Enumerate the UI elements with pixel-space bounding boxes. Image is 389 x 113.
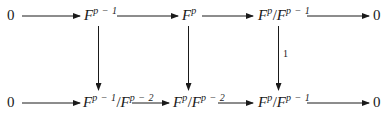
label-text: 1: [283, 48, 288, 59]
denominator-base: F: [121, 94, 130, 110]
numerator-base: F: [83, 94, 92, 110]
denominator-sup: p − 2: [130, 92, 154, 103]
denominator-base: F: [277, 7, 286, 23]
numerator-sup: p: [182, 92, 188, 103]
numerator-base: F: [258, 94, 267, 110]
superscript: p − 1: [93, 5, 117, 16]
zero-text: 0: [7, 94, 15, 110]
top-node-f-p-minus-1: Fp − 1: [84, 8, 117, 24]
top-zero-left: 0: [7, 8, 15, 23]
bottom-zero-left: 0: [7, 95, 15, 110]
vertical-right-label: 1: [283, 49, 288, 59]
bottom-node-fp-over-fp2: Fp/Fp − 2: [173, 95, 225, 111]
top-node-f-p: Fp: [182, 8, 197, 24]
zero-text: 0: [373, 7, 381, 23]
base-F: F: [182, 7, 191, 23]
numerator-sup: p: [267, 92, 273, 103]
numerator-base: F: [258, 7, 267, 23]
numerator-sup: p − 1: [92, 92, 116, 103]
top-zero-right: 0: [373, 8, 381, 23]
bottom-node-fp1-over-fp2: Fp − 1/Fp − 2: [83, 95, 154, 111]
bottom-zero-right: 0: [373, 95, 381, 110]
top-node-f-p-over-f-p-minus-1: Fp/Fp − 1: [258, 8, 310, 24]
numerator-base: F: [173, 94, 182, 110]
denominator-base: F: [277, 94, 286, 110]
numerator-sup: p: [267, 5, 273, 16]
denominator-sup: p − 1: [286, 92, 310, 103]
superscript: p: [191, 5, 197, 16]
denominator-base: F: [192, 94, 201, 110]
denominator-sup: p − 2: [201, 92, 225, 103]
base-F: F: [84, 7, 93, 23]
denominator-sup: p − 1: [286, 5, 310, 16]
bottom-node-fp-over-fp1: Fp/Fp − 1: [258, 95, 310, 111]
zero-text: 0: [373, 94, 381, 110]
zero-text: 0: [7, 7, 15, 23]
